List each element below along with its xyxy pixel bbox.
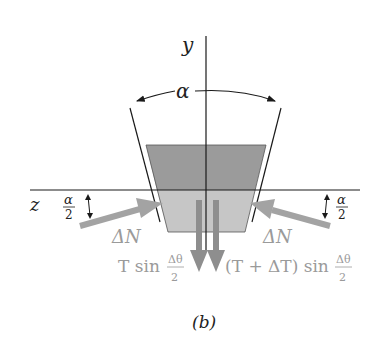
half-angle-left-denominator: 2 bbox=[65, 208, 73, 222]
half-angle-arrowhead-left-up bbox=[85, 194, 91, 200]
tension-left-numerator: Δθ bbox=[168, 253, 183, 266]
figure-caption: (b) bbox=[192, 312, 216, 332]
tension-right-denominator: 2 bbox=[339, 271, 346, 284]
z-axis-label: z bbox=[29, 194, 40, 215]
half-angle-left-numerator: α bbox=[64, 192, 73, 207]
alpha-arc-right bbox=[195, 90, 275, 101]
half-angle-arrowhead-right-up bbox=[324, 194, 330, 200]
normal-force-arrow-left bbox=[80, 198, 163, 226]
normal-force-arrow-right bbox=[250, 199, 330, 226]
y-axis-label: y bbox=[181, 33, 194, 57]
half-angle-right-numerator: α bbox=[337, 192, 346, 207]
half-angle-arrowhead-left-down bbox=[87, 213, 93, 219]
normal-force-label-left: ΔN bbox=[111, 226, 142, 247]
tension-right-numerator: Δθ bbox=[336, 253, 351, 266]
tension-left-denominator: 2 bbox=[171, 271, 178, 284]
tension-left-prefix: T sin bbox=[118, 256, 160, 276]
half-angle-arrowhead-right-down bbox=[322, 213, 328, 219]
alpha-label: α bbox=[176, 79, 190, 103]
half-angle-right-denominator: 2 bbox=[338, 208, 346, 222]
normal-force-label-right: ΔN bbox=[262, 226, 293, 247]
v-belt-free-body-diagram: y z α α 2 α 2 ΔN ΔN T sin Δθ 2 (T + ΔT) … bbox=[0, 0, 381, 345]
tension-right-prefix: (T + ΔT) sin bbox=[225, 256, 329, 276]
alpha-arc-left bbox=[137, 91, 175, 101]
